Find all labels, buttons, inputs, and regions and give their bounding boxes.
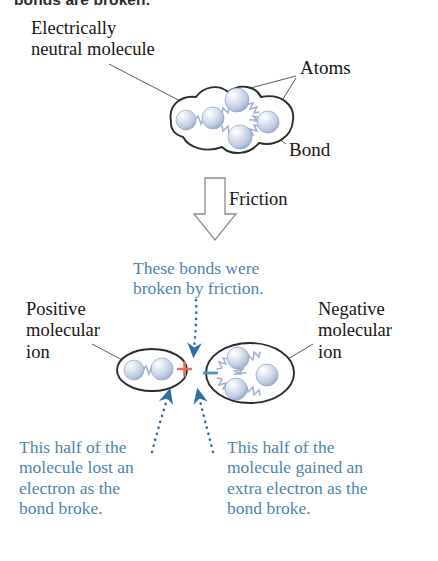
negative-ion-outline bbox=[206, 343, 294, 403]
header-partial-text: bonds are broken. bbox=[14, 0, 150, 9]
caption-right-gained-electron: This half of the molecule gained an extr… bbox=[227, 437, 367, 518]
caption-left-lost-electron: This half of the molecule lost an electr… bbox=[19, 437, 134, 518]
label-positive-molecular-ion: Positive molecular ion bbox=[26, 299, 100, 363]
label-broken-by-friction: These bonds were broken by friction. bbox=[133, 258, 264, 299]
leader-line-neutral-molecule bbox=[109, 64, 186, 104]
label-negative-molecular-ion: Negative molecular ion bbox=[318, 299, 392, 363]
label-neutral-molecule: Electrically neutral molecule bbox=[31, 18, 155, 61]
dotted-arrow-right-caption bbox=[199, 396, 213, 452]
dotted-arrow-broken-bonds bbox=[194, 300, 196, 350]
label-friction: Friction bbox=[229, 189, 288, 210]
dotted-arrow-left-caption bbox=[152, 396, 168, 452]
figure-canvas: bonds are broken. Electrically neutral m… bbox=[0, 0, 438, 561]
label-bond: Bond bbox=[289, 139, 330, 161]
label-atoms: Atoms bbox=[300, 57, 351, 79]
